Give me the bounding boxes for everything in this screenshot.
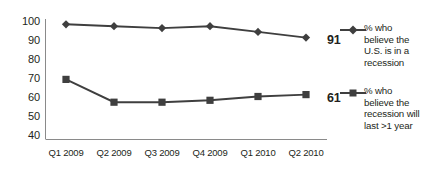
data-point-diamond bbox=[254, 28, 262, 36]
x-axis-tick-q4-2009: Q4 2009 bbox=[186, 147, 234, 158]
data-point-diamond bbox=[62, 20, 70, 28]
data-point-diamond bbox=[302, 34, 310, 42]
data-point-square bbox=[206, 97, 213, 104]
data-point-square bbox=[254, 93, 261, 100]
chart-container: 100 90 80 70 60 50 40 Q1 2009 Q2 2009 Q3… bbox=[0, 0, 434, 175]
data-point-square bbox=[110, 99, 117, 106]
x-axis-tick-q2-2010: Q2 2010 bbox=[282, 147, 330, 158]
x-axis-tick-q1-2009: Q1 2009 bbox=[42, 147, 90, 158]
x-axis-tick-q3-2009: Q3 2009 bbox=[138, 147, 186, 158]
legend-label-line-3: recession will bbox=[364, 108, 434, 120]
legend-label-line-1: % who bbox=[364, 85, 434, 97]
data-point-diamond bbox=[110, 22, 118, 30]
legend-label-line-1: % who bbox=[364, 22, 434, 34]
series-2-end-value-label: 61 bbox=[327, 91, 341, 105]
legend-label-line-4: recession bbox=[364, 57, 434, 69]
series-1-end-value-label: 91 bbox=[327, 33, 341, 47]
x-axis-tick-q1-2010: Q1 2010 bbox=[234, 147, 282, 158]
data-point-square bbox=[62, 76, 69, 83]
data-point-square bbox=[302, 91, 309, 98]
legend-label-line-2: believe the bbox=[364, 97, 434, 109]
legend-label-line-4: last >1 year bbox=[364, 120, 434, 132]
data-point-square bbox=[158, 99, 165, 106]
data-point-diamond bbox=[206, 22, 214, 30]
data-point-diamond bbox=[158, 24, 166, 32]
legend-marker-square-icon bbox=[340, 87, 366, 99]
x-axis-tick-q2-2009: Q2 2009 bbox=[90, 147, 138, 158]
legend-marker-diamond-icon bbox=[340, 24, 366, 36]
legend-label-line-2: believe the bbox=[364, 34, 434, 46]
series-line-1 bbox=[66, 24, 306, 37]
series-line-2 bbox=[66, 79, 306, 102]
legend-label-recession-belief: % who believe the U.S. is in a recession bbox=[364, 22, 434, 68]
legend-label-duration-belief: % who believe the recession will last >1… bbox=[364, 85, 434, 131]
legend-label-line-3: U.S. is in a bbox=[364, 45, 434, 57]
